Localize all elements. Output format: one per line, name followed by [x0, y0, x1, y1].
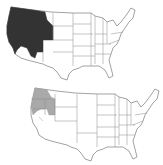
- us-map-top-svg: [3, 4, 139, 82]
- us-map-bottom-svg: [27, 85, 161, 163]
- us-map-bottom: [27, 85, 161, 163]
- us-map-top: [3, 4, 139, 82]
